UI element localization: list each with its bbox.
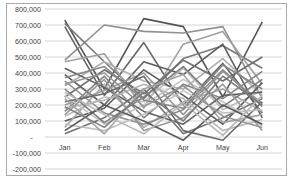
y-tick-label: 700,000 <box>15 21 41 30</box>
y-tick-label: - <box>31 133 34 142</box>
y-tick-label: -200,000 <box>13 165 41 174</box>
y-tick-label: 100,000 <box>15 117 41 126</box>
x-tick-label: Jun <box>256 143 268 152</box>
line-chart: 800,000700,000600,000500,000400,000300,0… <box>0 0 295 188</box>
x-tick-label: Feb <box>98 143 110 152</box>
x-tick-label: May <box>216 143 230 152</box>
y-tick-label: 200,000 <box>15 101 41 110</box>
y-tick-label: 500,000 <box>15 53 41 62</box>
x-tick-label: Apr <box>178 143 190 152</box>
y-tick-label: -100,000 <box>13 149 41 158</box>
y-tick-label: 300,000 <box>15 85 41 94</box>
y-tick-label: 800,000 <box>15 5 41 14</box>
y-tick-label: 600,000 <box>15 37 41 46</box>
y-axis-labels: 800,000700,000600,000500,000400,000300,0… <box>13 5 41 174</box>
series-lines <box>65 19 262 141</box>
x-axis-labels: JanFebMarAprMayJun <box>59 143 268 152</box>
x-tick-label: Mar <box>138 143 151 152</box>
y-tick-label: 400,000 <box>15 69 41 78</box>
x-tick-label: Jan <box>59 143 71 152</box>
